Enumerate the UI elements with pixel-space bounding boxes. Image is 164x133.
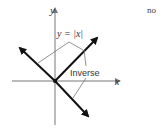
x-axis-label: x — [114, 76, 120, 87]
origin-point — [53, 79, 57, 83]
graph-left-branch — [20, 48, 55, 81]
corner-text: no — [147, 5, 156, 15]
graph-figure: y x y = |x| Inverse — [0, 0, 164, 133]
graph-label: y = |x| — [56, 28, 83, 39]
y-axis-label: y — [49, 4, 55, 16]
inverse-label: Inverse — [70, 68, 100, 78]
inverse-leader-upper — [84, 50, 86, 66]
inverse-lower-branch — [55, 81, 88, 116]
